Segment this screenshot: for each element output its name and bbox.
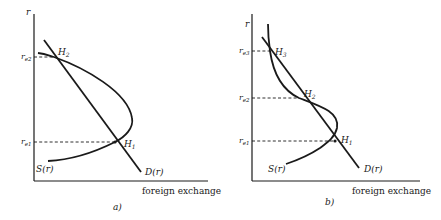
rate-label-re2: re2 [21, 52, 32, 62]
demand-label: D(r) [144, 167, 164, 177]
equilibrium-label-h1: H1 [340, 135, 353, 146]
equilibrium-label-h3: H3 [274, 47, 287, 58]
panel-caption: b) [325, 197, 335, 207]
y-axis-label: r [245, 19, 250, 29]
rate-label-re2: re2 [239, 93, 250, 103]
supply-label: S(r) [268, 164, 286, 174]
x-axis-label: foreign exchange [352, 186, 431, 196]
demand-label: D(r) [363, 164, 383, 174]
rate-label-re1: re1 [239, 136, 250, 146]
panel-a: r foreign exchange a) re2 re1 D(r) S(r) … [21, 7, 221, 212]
equilibrium-label-h1: H1 [123, 139, 136, 150]
y-axis-label: r [26, 7, 31, 17]
supply-curve [268, 24, 337, 164]
panel-b: r foreign exchange b) re3 re2 re1 D(r) S… [239, 14, 431, 207]
equilibrium-point-h1 [333, 139, 336, 142]
equilibrium-point-h1 [113, 140, 116, 143]
rate-label-re3: re3 [239, 46, 250, 56]
supply-label: S(r) [36, 164, 54, 174]
supply-curve [38, 53, 132, 161]
rate-label-re1: re1 [21, 137, 32, 147]
x-axis-label: foreign exchange [142, 186, 221, 196]
equilibrium-label-h2: H2 [303, 89, 316, 100]
panel-caption: a) [113, 202, 122, 212]
equilibrium-label-h2: H2 [57, 47, 70, 58]
diagram-canvas: r foreign exchange a) re2 re1 D(r) S(r) … [0, 0, 441, 220]
